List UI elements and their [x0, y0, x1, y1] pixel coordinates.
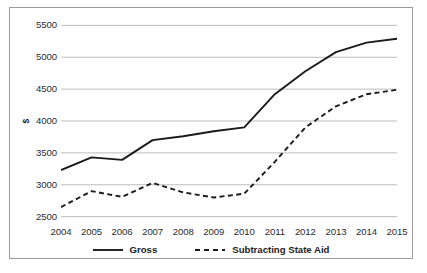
legend-item[interactable]: Gross — [93, 244, 158, 255]
x-tick-label: 2005 — [81, 226, 102, 238]
legend-label: Subtracting State Aid — [232, 244, 329, 255]
x-tick-label: 2015 — [387, 226, 408, 238]
y-tick-label: 3000 — [13, 180, 57, 190]
dashed-line-icon — [195, 246, 225, 254]
legend-item[interactable]: Subtracting State Aid — [195, 244, 329, 255]
x-tick-label: 2012 — [295, 226, 316, 238]
x-tick-label: 2004 — [51, 226, 72, 238]
plot-area — [61, 19, 397, 223]
x-tick-label: 2010 — [234, 226, 255, 238]
legend-label: Gross — [130, 244, 158, 255]
chart-svg — [61, 19, 397, 223]
chart-legend: GrossSubtracting State Aid — [10, 244, 412, 255]
x-axis-ticks: 2004200520062007200820092010201120122013… — [61, 226, 397, 240]
y-axis-ticks: 2500300035004000450050005500 — [10, 19, 57, 223]
series-lines — [61, 39, 397, 207]
x-tick-label: 2011 — [265, 226, 285, 238]
series-line-gross — [61, 39, 397, 170]
gridlines — [61, 25, 397, 216]
y-tick-label: 5000 — [13, 52, 57, 62]
y-tick-label: 3500 — [13, 148, 57, 158]
x-tick-label: 2014 — [356, 226, 377, 238]
series-line-subtracting-state-aid — [61, 90, 397, 207]
x-tick-label: 2008 — [173, 226, 194, 238]
x-tick-label: 2006 — [112, 226, 133, 238]
y-tick-label: 4000 — [13, 116, 57, 126]
chart-frame: $ 2500300035004000450050005500 200420052… — [9, 7, 413, 259]
x-tick-label: 2009 — [203, 226, 224, 238]
x-tick-label: 2013 — [325, 226, 346, 238]
y-tick-label: 5500 — [13, 20, 57, 30]
solid-line-icon — [93, 246, 123, 254]
x-tick-label: 2007 — [142, 226, 163, 238]
y-tick-label: 2500 — [13, 212, 57, 222]
y-tick-label: 4500 — [13, 84, 57, 94]
